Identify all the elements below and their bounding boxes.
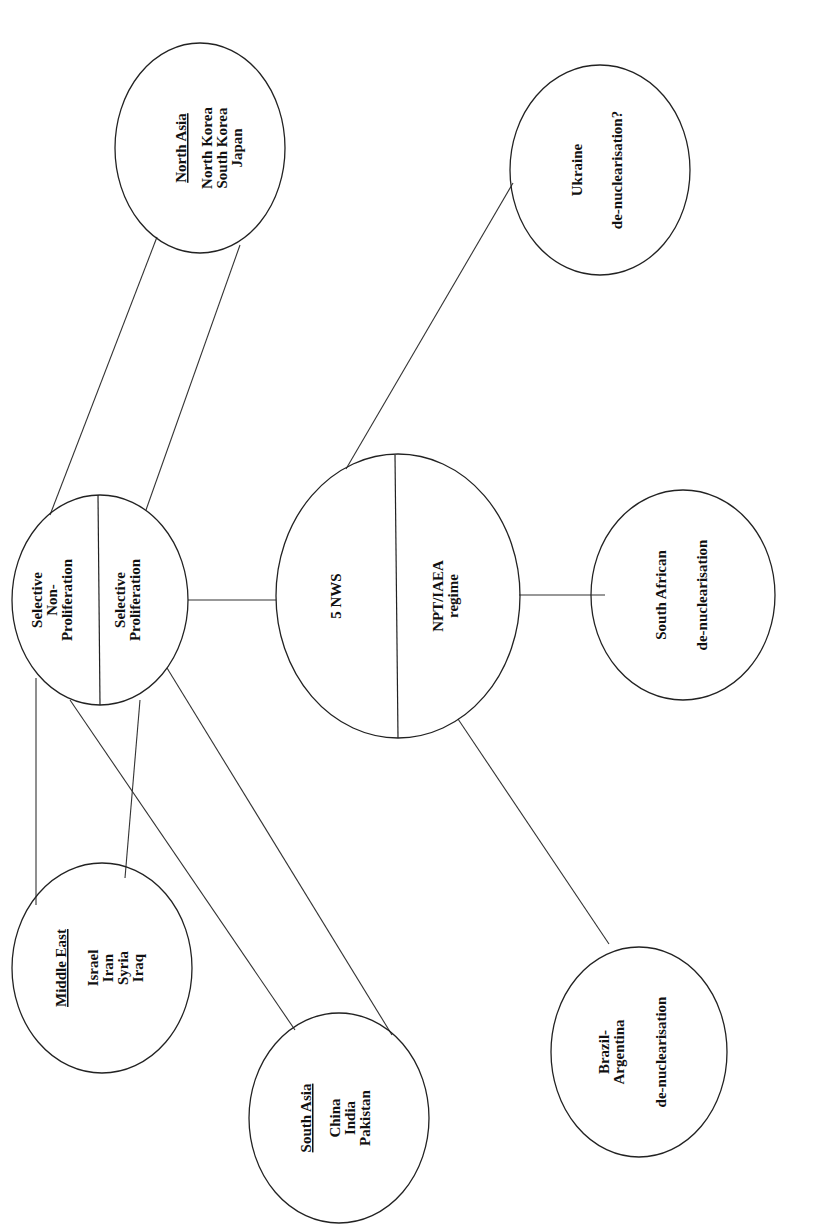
- edge-nws-ukraine: [346, 183, 513, 469]
- region-heading: South Asia: [298, 1083, 314, 1152]
- edge-selective-south-asia-2: [167, 668, 392, 1035]
- regime-label: regime: [445, 574, 461, 618]
- diagram-canvas: North Asia North Korea South Korea Japan…: [0, 0, 826, 1224]
- selective-prolif-line1: Selective: [112, 572, 128, 628]
- country-item: Syria: [115, 950, 131, 985]
- node-selective: Selective Non- Proliferation Selective P…: [12, 495, 188, 705]
- node-south-asia: South Asia China India Pakistan: [249, 1013, 429, 1223]
- node-subtitle: de-nuclearisation: [694, 539, 710, 650]
- node-5-nws: 5 NWS NPT/IAEA regime: [276, 454, 520, 738]
- country-item: India: [342, 1100, 358, 1135]
- circle: [551, 947, 727, 1157]
- edge-selective-north-asia-2: [146, 245, 240, 510]
- country-item: Iran: [100, 953, 116, 982]
- node-south-africa: South African de-nuclearisation: [591, 490, 775, 700]
- node-title-line2: Argentina: [611, 1019, 627, 1084]
- node-subtitle: de-nuclearisation: [653, 996, 669, 1107]
- edge-selective-middle-east-2: [125, 700, 140, 878]
- divider: [98, 495, 100, 705]
- node-north-asia: North Asia North Korea South Korea Japan: [115, 43, 285, 253]
- selective-nonprolif-line1: Selective: [29, 572, 45, 628]
- node-subtitle: de-nuclearisation?: [609, 111, 625, 229]
- divider: [395, 455, 398, 738]
- edge-nws-brazil-argentina: [458, 719, 609, 944]
- country-item: Pakistan: [357, 1089, 373, 1146]
- node-title: South African: [653, 550, 669, 640]
- node-middle-east: Middle East Israel Iran Syria Iraq: [12, 863, 192, 1073]
- selective-nonprolif-line2: Non-: [44, 584, 60, 616]
- node-brazil-argentina: Brazil- Argentina de-nuclearisation: [551, 947, 727, 1157]
- country-item: Iraq: [130, 953, 146, 982]
- nws-label: 5 NWS: [328, 573, 344, 618]
- circle: [510, 65, 690, 275]
- region-heading: Middle East: [53, 929, 69, 1007]
- node-ukraine: Ukraine de-nuclearisation?: [510, 65, 690, 275]
- country-item: South Korea: [214, 107, 230, 188]
- circle: [591, 490, 775, 700]
- selective-nonprolif-line3: Proliferation: [59, 558, 75, 641]
- region-heading: North Asia: [173, 113, 189, 183]
- node-title: Ukraine: [569, 143, 585, 196]
- country-item: North Korea: [199, 107, 215, 189]
- selective-prolif-line2: Proliferation: [127, 558, 143, 641]
- country-item: Israel: [85, 950, 101, 987]
- npt-iaea-label: NPT/IAEA: [430, 560, 446, 632]
- country-item: China: [327, 1098, 343, 1138]
- edge-selective-north-asia-1: [50, 237, 157, 515]
- node-title-line1: Brazil-: [596, 1030, 612, 1074]
- country-item: Japan: [229, 128, 245, 168]
